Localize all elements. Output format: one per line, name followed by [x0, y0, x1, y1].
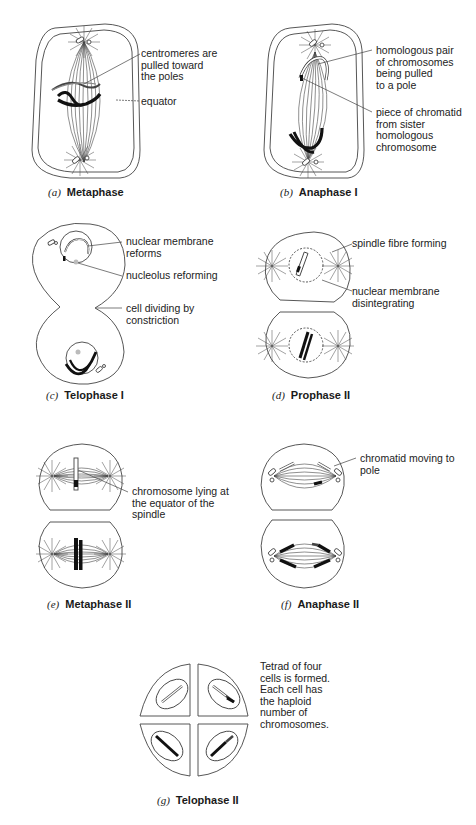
caption-a-name: Metaphase: [67, 186, 124, 198]
caption-a: (a)Metaphase: [48, 186, 124, 198]
caption-c: (c)Telophase I: [46, 389, 124, 401]
panel-c-telophase-i-cell: [32, 223, 125, 384]
caption-f: (f)Anaphase II: [281, 598, 359, 610]
label-chromatid-moving: chromatid moving to pole: [360, 453, 455, 476]
panel-g-telophase-ii-cells: [140, 664, 248, 776]
caption-g-letter: (g): [157, 794, 170, 806]
caption-c-letter: (c): [46, 389, 58, 401]
caption-b: (b)Anaphase I: [280, 186, 358, 198]
panel-a-metaphase-cell: [32, 24, 140, 178]
panel-b-anaphase-i-cell: [264, 24, 372, 178]
caption-g: (g)Telophase II: [157, 794, 239, 806]
label-centromeres-pulled: centromeres are pulled toward the poles: [141, 48, 217, 83]
label-cell-dividing: cell dividing by constriction: [126, 303, 194, 326]
caption-g-name: Telophase II: [176, 794, 239, 806]
label-homologous-pair: homologous pair of chromosomes being pul…: [376, 45, 454, 91]
label-nuclear-membrane-reforms: nuclear membrane reforms: [126, 236, 214, 259]
caption-a-letter: (a): [48, 186, 61, 198]
panel-f-anaphase-ii-cells: [261, 444, 356, 588]
caption-d: (d)Prophase II: [272, 389, 350, 401]
caption-f-name: Anaphase II: [297, 598, 359, 610]
caption-f-letter: (f): [281, 598, 291, 610]
label-chromosome-at-equator: chromosome lying at the equator of the s…: [132, 486, 229, 521]
caption-b-letter: (b): [280, 186, 293, 198]
label-piece-of-chromatid: piece of chromatid from sister homologou…: [376, 107, 462, 153]
caption-d-letter: (d): [272, 389, 285, 401]
panel-d-prophase-ii-cells: [256, 232, 354, 378]
label-nuclear-membrane-disintegrating: nuclear membrane disintegrating: [352, 286, 440, 309]
label-tetrad-description: Tetrad of four cells is formed. Each cel…: [260, 661, 330, 730]
label-spindle-fibre-forming: spindle fibre forming: [352, 238, 447, 250]
caption-c-name: Telophase I: [64, 389, 124, 401]
label-nucleolus-reforming: nucleolus reforming: [126, 270, 218, 282]
caption-d-name: Prophase II: [291, 389, 350, 401]
panel-e-metaphase-ii-cells: [36, 444, 128, 588]
caption-b-name: Anaphase I: [299, 186, 358, 198]
caption-e-letter: (e): [47, 598, 59, 610]
label-equator: equator: [141, 96, 177, 108]
caption-e: (e)Metaphase II: [47, 598, 131, 610]
caption-e-name: Metaphase II: [65, 598, 131, 610]
